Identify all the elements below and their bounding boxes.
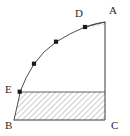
vertex-label-C: C bbox=[111, 120, 118, 131]
vertex-label-B: B bbox=[5, 120, 12, 131]
figure-canvas bbox=[0, 0, 130, 136]
vertex-label-A: A bbox=[109, 5, 117, 16]
curve-marker-D bbox=[83, 25, 87, 29]
lower-hatched-region bbox=[14, 92, 105, 120]
vertex-label-E: E bbox=[5, 84, 12, 95]
geometry-figure: A B C D E bbox=[0, 0, 130, 136]
curve-marker-1 bbox=[32, 62, 36, 66]
vertex-label-D: D bbox=[75, 8, 83, 19]
curve-marker-2 bbox=[54, 40, 58, 44]
curve-marker-E bbox=[18, 90, 22, 94]
